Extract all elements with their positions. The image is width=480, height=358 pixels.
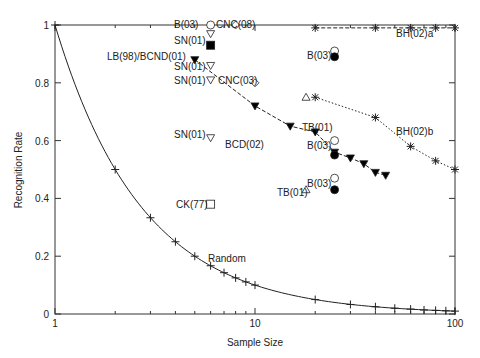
y-tick-label: 0.2 — [35, 251, 49, 262]
label-cnc08: CNC(08) — [216, 19, 255, 30]
label-b03-2: B(03) — [307, 140, 331, 151]
label-cnc03: CNC(03) — [218, 75, 257, 86]
label-sn01-4: SN(01) — [174, 129, 206, 140]
label-tb01-1: TB(01) — [302, 122, 333, 133]
point-labels: Random BH(02)a BH(02)b BCD(02) B(03) B(0… — [107, 19, 434, 264]
label-bh02a: BH(02)a — [396, 28, 434, 39]
x-tick-label: 10 — [249, 318, 261, 329]
x-tick-label: 100 — [447, 318, 464, 329]
y-tick-label: 0.4 — [35, 193, 49, 204]
y-tick-label: 0.8 — [35, 78, 49, 89]
x-axis-label: Sample Size — [227, 337, 284, 348]
label-b03-top: B(03) — [174, 19, 198, 30]
data-series — [51, 21, 459, 315]
y-tick-label: 0.6 — [35, 136, 49, 147]
label-bh02b: BH(02)b — [396, 126, 434, 137]
y-tick-label: 0 — [43, 309, 49, 320]
label-b03-3: B(03) — [307, 178, 331, 189]
label-random: Random — [208, 253, 246, 264]
x-tick-label: 1 — [52, 318, 58, 329]
label-sn01-3: SN(01) — [174, 75, 206, 86]
tick-labels: 11010000.20.40.60.81 — [35, 20, 464, 329]
label-bcd02: BCD(02) — [225, 139, 264, 150]
label-ck77: CK(77) — [176, 199, 208, 210]
y-tick-label: 1 — [43, 20, 49, 31]
label-tb01-2: TB(01) — [277, 187, 308, 198]
label-lb98-bcnd01: LB(98)/BCND(01) — [107, 51, 186, 62]
label-b03-1: B(03) — [307, 50, 331, 61]
chart: 11010000.20.40.60.81 Sample Size Recogni… — [0, 0, 480, 358]
label-sn01-2: SN(01) — [174, 61, 206, 72]
y-axis-label: Recognition Rate — [13, 131, 24, 208]
label-sn01-1: SN(01) — [174, 35, 206, 46]
